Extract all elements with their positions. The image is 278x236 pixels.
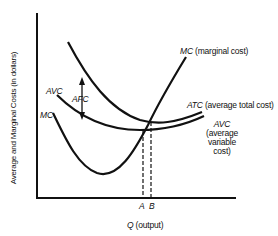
mc-label: MC (marginal cost) <box>180 47 248 56</box>
y-axis-label: Average and Marginal Costs (in dollars) <box>9 52 18 185</box>
afc-label: AFC <box>72 95 88 104</box>
mc-curve <box>53 57 186 174</box>
point-b-label: B <box>149 202 154 211</box>
x-axis-label: Q (output) <box>127 221 163 230</box>
atc-label: ATC (average total cost) <box>187 101 274 110</box>
afc-arrow-up-icon <box>79 77 85 85</box>
avc-label-right: AVC (average variable cost) <box>202 120 242 156</box>
mc-label-left: MC <box>40 111 53 120</box>
avc-label-left: AVC <box>46 87 62 96</box>
point-a-label: A <box>139 202 144 211</box>
